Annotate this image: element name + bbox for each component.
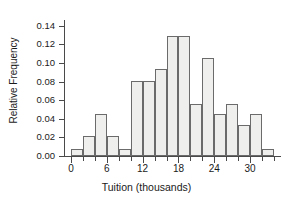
x-axis-label-text: Tuition (thousands) xyxy=(102,181,192,193)
y-tick-mark xyxy=(59,82,64,83)
x-tick-label: 0 xyxy=(59,164,83,174)
y-tick-mark xyxy=(59,156,64,157)
histogram-bar xyxy=(167,36,179,156)
y-tick-label: 0.00 xyxy=(23,151,55,161)
x-tick-mark-minor xyxy=(202,157,203,161)
histogram-bar xyxy=(214,114,226,156)
x-axis-label: Tuition (thousands) xyxy=(0,181,293,193)
x-axis-line xyxy=(64,156,281,157)
y-tick-mark xyxy=(59,100,64,101)
x-tick-mark-minor xyxy=(274,157,275,161)
y-axis-label: Relative Frequency xyxy=(2,0,24,160)
y-tick-label: 0.06 xyxy=(23,95,55,105)
x-tick-mark-minor xyxy=(262,157,263,161)
x-tick-mark-minor xyxy=(83,157,84,161)
y-tick-mark xyxy=(59,119,64,120)
histogram-bar xyxy=(83,136,95,156)
y-tick-mark xyxy=(59,137,64,138)
y-tick-label: 0.14 xyxy=(23,21,55,31)
histogram-bar xyxy=(202,58,214,156)
x-tick-label: 6 xyxy=(95,164,119,174)
y-tick-label: 0.12 xyxy=(23,39,55,49)
histogram-bar xyxy=(190,104,202,156)
histogram-figure: Relative Frequency Tuition (thousands) 0… xyxy=(0,0,293,205)
x-tick-mark-minor xyxy=(238,157,239,161)
y-tick-label: 0.04 xyxy=(23,114,55,124)
histogram-bar xyxy=(250,114,262,156)
x-tick-mark-minor xyxy=(119,157,120,161)
x-tick-mark-minor xyxy=(95,157,96,161)
x-tick-mark-minor xyxy=(131,157,132,161)
x-tick-label: 24 xyxy=(202,164,226,174)
y-tick-label: 0.10 xyxy=(23,58,55,68)
y-tick-label: 0.02 xyxy=(23,132,55,142)
x-tick-label: 30 xyxy=(238,164,262,174)
histogram-bar xyxy=(95,114,107,156)
x-tick-mark-minor xyxy=(226,157,227,161)
histogram-bar xyxy=(119,149,131,156)
y-tick-mark xyxy=(59,26,64,27)
y-tick-label: 0.08 xyxy=(23,77,55,87)
histogram-bar xyxy=(238,125,250,156)
x-tick-label: 12 xyxy=(131,164,155,174)
histogram-bar xyxy=(155,69,167,156)
y-tick-mark xyxy=(59,63,64,64)
histogram-bar xyxy=(143,81,155,156)
x-tick-mark-minor xyxy=(167,157,168,161)
histogram-bar xyxy=(178,36,190,156)
x-tick-mark-minor xyxy=(155,157,156,161)
histogram-bar xyxy=(262,149,274,156)
x-tick-mark-minor xyxy=(190,157,191,161)
histogram-bar xyxy=(131,81,143,156)
x-tick-label: 18 xyxy=(166,164,190,174)
histogram-bar xyxy=(71,149,83,156)
histogram-bar xyxy=(226,104,238,156)
y-tick-mark xyxy=(59,44,64,45)
histogram-bar xyxy=(107,136,119,156)
plot-area xyxy=(65,21,280,156)
y-axis-label-text: Relative Frequency xyxy=(8,37,19,123)
